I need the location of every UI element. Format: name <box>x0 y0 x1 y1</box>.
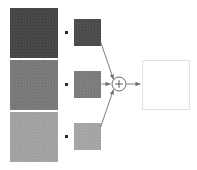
connector-1 <box>101 42 114 80</box>
connector-3 <box>101 90 114 128</box>
connector-layer <box>0 0 197 170</box>
diagram-canvas <box>0 0 197 170</box>
